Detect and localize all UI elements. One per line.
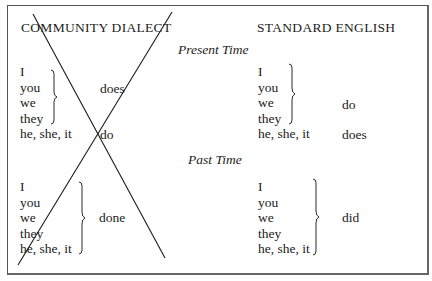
annotations-layer — [0, 0, 432, 281]
strike-line-2 — [18, 12, 172, 265]
brace-icon — [79, 182, 85, 254]
strike-line-1 — [33, 14, 165, 258]
brace-icon — [51, 70, 57, 124]
brace-icon — [289, 64, 295, 124]
brace-icon — [313, 179, 319, 255]
